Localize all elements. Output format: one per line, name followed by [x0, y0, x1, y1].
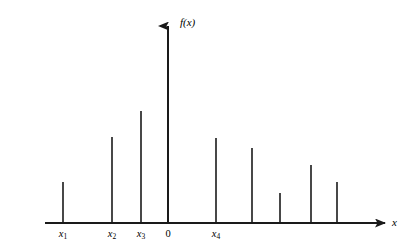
tick-label-x2-sub: 2 — [112, 232, 116, 241]
tick-label-origin: 0 — [165, 229, 170, 240]
tick-label-x4-base: x — [212, 228, 217, 239]
tick-label-x3-sub: 3 — [141, 232, 145, 241]
tick-label-x2-base: x — [108, 228, 113, 239]
tick-label-x1: x1 — [59, 229, 67, 240]
tick-label-x1-base: x — [59, 228, 64, 239]
y-axis-label: f(x) — [180, 17, 195, 28]
tick-label-x3: x3 — [137, 229, 145, 240]
tick-label-x3-base: x — [137, 228, 142, 239]
plot-canvas — [0, 0, 408, 252]
stem-plot-figure: f(x) x x1 x2 x3 0 x4 — [0, 0, 408, 252]
tick-label-x4-sub: 4 — [216, 232, 220, 241]
tick-label-x1-sub: 1 — [63, 232, 67, 241]
tick-label-x4: x4 — [212, 229, 220, 240]
stem-group — [63, 111, 337, 223]
tick-label-x2: x2 — [108, 229, 116, 240]
x-axis-label: x — [392, 217, 397, 228]
